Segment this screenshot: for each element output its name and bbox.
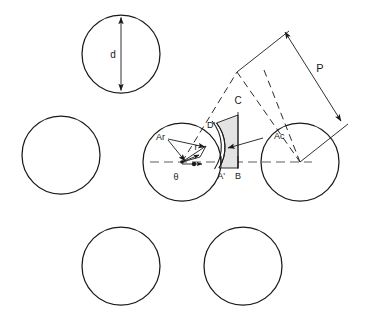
- radius-label: r: [195, 142, 198, 152]
- pitch-dimension-line: [285, 32, 341, 121]
- construction-line-secondary: [264, 70, 300, 162]
- b-point-label: B: [235, 171, 241, 181]
- d-prime-label: D': [207, 120, 215, 130]
- technical-diagram: d P C A' B D' Ac Ar: [0, 0, 368, 328]
- pitch-extension-line-lower: [300, 124, 348, 162]
- radial-area-label: Ar: [156, 132, 165, 142]
- bottom-right-circle: [204, 227, 282, 305]
- chord-label: C: [234, 95, 241, 106]
- bottom-left-circle: [82, 227, 160, 305]
- construction-line-apex-to-right: [237, 72, 300, 162]
- diagram-canvas: d P C A' B D' Ac Ar: [0, 0, 368, 328]
- diameter-label: d: [110, 49, 116, 60]
- a-prime-label: A': [217, 171, 225, 181]
- radial-area-leader-lower: [168, 140, 185, 161]
- contact-area-label: Ac: [274, 131, 285, 141]
- pitch-label: P: [316, 62, 323, 74]
- contact-area-shaded-region: [217, 115, 239, 168]
- pitch-extension-line-upper: [237, 31, 289, 72]
- theta-label: θ: [173, 172, 178, 182]
- left-circle: [22, 116, 100, 194]
- radial-area-leader-upper: [168, 139, 205, 147]
- center-point-dot: [180, 160, 184, 164]
